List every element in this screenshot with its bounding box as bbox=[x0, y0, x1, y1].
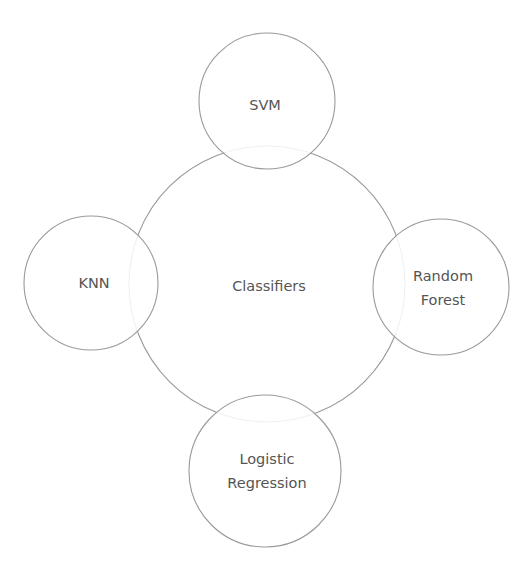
svm-label: SVM bbox=[249, 97, 281, 113]
logistic-regression-label-line-1: Logistic bbox=[239, 451, 294, 467]
classifiers-diagram: Classifiers SVM KNN Random Forest Logist… bbox=[0, 0, 529, 566]
satellite-node-knn: KNN bbox=[24, 216, 158, 350]
random-forest-label-line-2: Forest bbox=[421, 292, 466, 308]
knn-label: KNN bbox=[78, 275, 109, 291]
random-forest-label-line-1: Random bbox=[413, 268, 473, 284]
logistic-regression-circle bbox=[189, 395, 341, 547]
hub-node-classifiers: Classifiers bbox=[129, 146, 405, 422]
random-forest-circle bbox=[373, 219, 509, 355]
satellite-node-svm: SVM bbox=[199, 33, 335, 169]
satellite-node-logistic-regression: Logistic Regression bbox=[189, 395, 341, 547]
satellite-node-random-forest: Random Forest bbox=[373, 219, 509, 355]
hub-label: Classifiers bbox=[232, 278, 306, 294]
logistic-regression-label-line-2: Regression bbox=[227, 475, 306, 491]
